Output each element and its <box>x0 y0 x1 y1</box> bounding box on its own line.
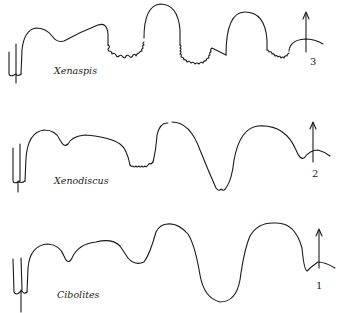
suture-diagram <box>0 0 344 313</box>
taxon-label-xenaspis: Xenaspis <box>54 65 97 76</box>
suture-number-3: 3 <box>310 56 316 67</box>
suture-number-1: 1 <box>316 280 322 291</box>
taxon-label-xenodiscus: Xenodiscus <box>54 175 109 186</box>
taxon-label-cibolites: Cibolites <box>57 289 100 300</box>
suture-number-2: 2 <box>312 168 318 179</box>
